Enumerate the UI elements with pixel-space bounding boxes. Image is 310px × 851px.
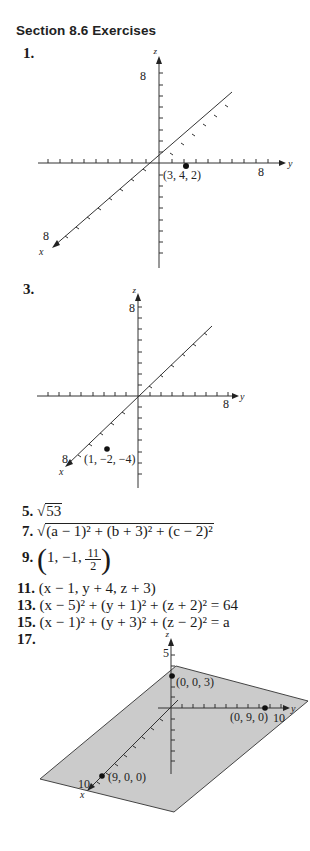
answer-9: 9. (1, −1, 112) <box>22 545 111 573</box>
radicand: 53 <box>45 503 62 519</box>
point-marker <box>99 773 105 779</box>
y-axis-label: y <box>239 391 245 402</box>
point-label: (0, 0, 3) <box>176 675 214 689</box>
exercise-number: 17. <box>17 631 36 648</box>
answer-11: 11. (x − 1, y + 4, z + 3) <box>17 580 156 597</box>
point-label: (1, −2, −4) <box>84 452 136 466</box>
z-max-tick-label: 5 <box>163 646 169 660</box>
answer-lead: 1, −1, <box>47 549 85 565</box>
z-max-tick-label: 8 <box>140 69 146 83</box>
fraction: 112 <box>85 547 101 572</box>
plot-exercise-1: z 8 8 y 8 x (3, 4, 2) z 8 8 y 8 x (1, −2… <box>0 0 310 851</box>
x-max-tick-label: 8 <box>62 452 68 466</box>
exercise-number: 11. <box>17 580 35 596</box>
z-axis-label: z <box>152 46 157 56</box>
exercise-number: 9. <box>22 549 33 565</box>
y-max-tick-label: 8 <box>223 397 229 411</box>
x-axis-label: x <box>58 466 64 477</box>
x-axis-label: x <box>79 789 85 800</box>
y-axis-label: y <box>290 703 296 714</box>
answer-text: (x − 1)² + (y + 3)² + (z − 2)² = a <box>40 614 230 630</box>
point-label: (9, 0, 0) <box>108 770 146 784</box>
z-axis-label: z <box>131 285 136 295</box>
answer-5: 5. √53 <box>22 503 62 520</box>
exercise-number: 5. <box>22 503 33 519</box>
point-label: (3, 4, 2) <box>163 168 201 182</box>
answer-13: 13. (x − 5)² + (y + 1)² + (z + 2)² = 64 <box>17 597 238 614</box>
answer-text: (x − 1, y + 4, z + 3) <box>39 580 156 596</box>
x-axis-label: x <box>38 246 44 257</box>
answer-text: (x − 5)² + (y + 1)² + (z + 2)² = 64 <box>40 597 238 613</box>
y-axis-label: y <box>287 158 293 169</box>
point-label: (0, 9, 0) <box>230 710 268 724</box>
radicand: (a − 1)² + (b + 3)² + (c − 2)² <box>45 523 214 539</box>
x-max-tick-label: 8 <box>43 229 49 243</box>
point-marker <box>169 673 175 679</box>
exercise-number: 7. <box>22 523 33 539</box>
exercise-number: 13. <box>17 597 36 613</box>
answer-7: 7. √(a − 1)² + (b + 3)² + (c − 2)² <box>22 523 214 540</box>
y-max-tick-label: 8 <box>258 165 264 179</box>
exercise-number: 3. <box>23 281 34 298</box>
point-marker <box>104 446 110 452</box>
z-max-tick-label: 8 <box>129 301 135 315</box>
y-max-tick-label: 10 <box>273 711 285 725</box>
exercise-number: 15. <box>17 614 36 630</box>
answer-15: 15. (x − 1)² + (y + 3)² + (z − 2)² = a <box>17 614 230 631</box>
